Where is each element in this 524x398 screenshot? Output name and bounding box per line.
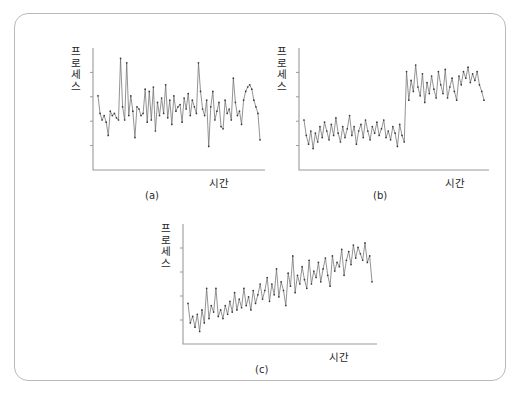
chart-b-caption: (b) — [373, 190, 387, 201]
chart-c-caption: (c) — [255, 364, 268, 375]
chart-c-x-axis-label: 시간 — [329, 349, 349, 364]
chart-panel-c: 프로세스 시간 (c) — [147, 209, 379, 384]
figure-border-frame: 프로세스 시간 (a) 프로세스 시간 (b) 프로세스 시간 (c) — [14, 13, 506, 381]
chart-a-plot-area — [57, 32, 267, 214]
chart-panel-a: 프로세스 시간 (a) — [57, 32, 267, 214]
chart-a-x-axis-label: 시간 — [209, 175, 229, 190]
chart-panel-b: 프로세스 시간 (b) — [263, 32, 491, 214]
chart-a-caption: (a) — [145, 190, 159, 201]
chart-b-x-axis-label: 시간 — [445, 175, 465, 190]
